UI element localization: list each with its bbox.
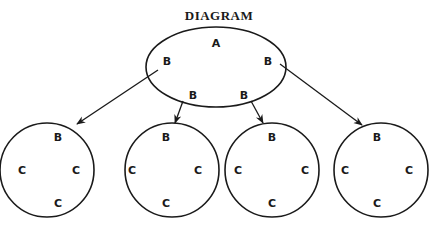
node-label-b: B: [189, 89, 197, 102]
node-label-c: C: [268, 197, 276, 210]
arrow-3: [251, 101, 263, 123]
node-label-b: B: [268, 131, 276, 144]
arrow-1: [77, 70, 158, 124]
parent-ellipse-group: ABBBB: [146, 27, 286, 107]
node-label-b: B: [240, 89, 248, 102]
node-label-c: C: [194, 164, 202, 177]
node-label-c: C: [341, 164, 349, 177]
node-label-c: C: [162, 197, 170, 210]
child-circle-4: BCCC: [334, 123, 428, 217]
node-label-c: C: [301, 164, 309, 177]
child-circles-group: BCCCBCCCBCCCBCCC: [0, 123, 428, 217]
arrow-4: [280, 64, 362, 125]
child-circle-outline: [125, 123, 219, 217]
node-label-b: B: [54, 131, 62, 144]
node-label-b: B: [264, 55, 272, 68]
arrows-group: [77, 64, 362, 125]
child-circle-3: BCCC: [225, 123, 319, 217]
node-label-c: C: [128, 164, 136, 177]
node-label-a: A: [212, 37, 221, 50]
node-label-c: C: [54, 197, 62, 210]
node-label-c: C: [373, 197, 381, 210]
node-label-c: C: [18, 164, 26, 177]
node-label-b: B: [373, 131, 381, 144]
node-label-c: C: [405, 164, 413, 177]
diagram-canvas: DIAGRAM ABBBB BCCCBCCCBCCCBCCC: [0, 0, 438, 229]
arrow-2: [175, 101, 183, 123]
node-label-c: C: [234, 164, 242, 177]
diagram-title: DIAGRAM: [185, 8, 254, 23]
node-label-b: B: [162, 131, 170, 144]
child-circle-2: BCCC: [125, 123, 219, 217]
node-label-c: C: [72, 164, 80, 177]
node-label-b: B: [163, 55, 171, 68]
child-circle-1: BCCC: [0, 123, 94, 217]
